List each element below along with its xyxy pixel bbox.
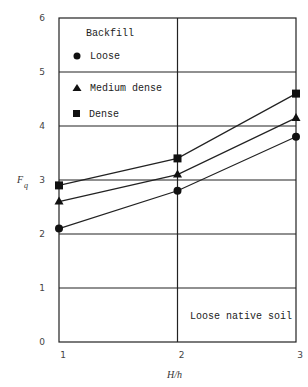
square-marker-icon	[55, 181, 63, 189]
y-axis-label: Fq	[16, 174, 28, 190]
x-tick-labels: 123	[60, 350, 303, 360]
y-tick-label: 2	[39, 229, 45, 239]
square-marker-icon	[73, 110, 80, 117]
circle-marker-icon	[292, 133, 300, 141]
x-axis-label: H/h	[166, 369, 182, 380]
x-tick-label: 3	[297, 350, 303, 360]
square-marker-icon	[174, 154, 182, 162]
circle-marker-icon	[55, 225, 63, 233]
y-tick-label: 0	[39, 337, 45, 347]
y-tick-label: 6	[39, 13, 45, 23]
circle-marker-icon	[174, 187, 182, 195]
x-tick-label: 1	[60, 350, 66, 360]
legend-item-dense: Dense	[89, 109, 119, 120]
triangle-marker-icon	[292, 113, 301, 121]
x-tick-label: 2	[179, 350, 185, 360]
triangle-marker-icon	[73, 84, 82, 91]
grid	[59, 18, 296, 342]
chart: 0123456 123 Backfill Loose Medium dense …	[0, 0, 308, 387]
y-tick-label: 3	[39, 175, 45, 185]
square-marker-icon	[292, 90, 300, 98]
legend-item-medium-dense: Medium dense	[90, 83, 162, 94]
y-tick-label: 5	[39, 67, 45, 77]
y-tick-label: 1	[39, 283, 45, 293]
annotation-loose-native-soil: Loose native soil	[190, 311, 292, 322]
circle-marker-icon	[74, 53, 81, 60]
legend-title: Backfill	[86, 28, 134, 39]
y-tick-labels: 0123456	[39, 13, 45, 347]
legend-item-loose: Loose	[90, 51, 120, 62]
y-tick-label: 4	[39, 121, 45, 131]
